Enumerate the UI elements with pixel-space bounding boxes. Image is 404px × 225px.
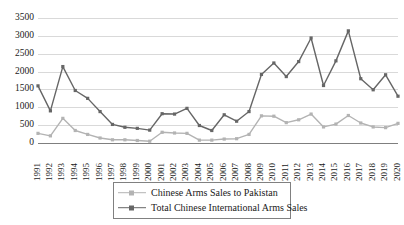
x-tick-label: 1992 <box>45 163 54 181</box>
data-point-marker <box>49 134 52 137</box>
data-point-marker <box>310 36 313 39</box>
data-point-marker <box>111 138 114 141</box>
data-point-marker <box>185 132 188 135</box>
data-point-marker <box>235 137 238 140</box>
x-tick-label: 2013 <box>306 163 315 181</box>
data-point-marker <box>384 73 387 76</box>
x-tick-label: 2000 <box>144 163 153 181</box>
x-tick-label: 2011 <box>281 163 290 181</box>
data-point-marker <box>148 140 151 143</box>
data-point-marker <box>396 122 399 125</box>
x-tick-label: 1994 <box>70 163 79 181</box>
x-tick-label: 2018 <box>368 163 377 181</box>
data-point-marker <box>347 29 350 32</box>
x-tick-label: 2008 <box>244 163 253 181</box>
data-point-marker <box>334 122 337 125</box>
data-point-marker <box>173 112 176 115</box>
legend-item-total[interactable]: Total Chinese International Arms Sales <box>118 200 286 215</box>
data-point-marker <box>61 117 64 120</box>
x-tick-label: 2020 <box>393 163 402 181</box>
x-tick-label: 2004 <box>194 163 203 181</box>
data-point-marker <box>334 59 337 62</box>
data-point-marker <box>86 133 89 136</box>
data-point-marker <box>235 120 238 123</box>
data-point-marker <box>198 124 201 127</box>
x-tick-label: 2009 <box>256 163 265 181</box>
data-point-marker <box>74 129 77 132</box>
data-point-marker <box>359 77 362 80</box>
data-point-marker <box>223 113 226 116</box>
x-tick-label: 1998 <box>119 163 128 181</box>
data-point-marker <box>185 107 188 110</box>
data-point-marker <box>372 125 375 128</box>
series-line <box>38 114 398 141</box>
series-line <box>38 31 398 131</box>
plot-area <box>38 18 398 143</box>
x-tick-label: 2015 <box>330 163 339 181</box>
data-point-marker <box>161 112 164 115</box>
data-point-marker <box>297 60 300 63</box>
x-axis-line <box>38 143 398 144</box>
data-point-marker <box>247 133 250 136</box>
y-tick-label: 2000 <box>0 67 34 77</box>
y-tick-label: 3000 <box>0 31 34 41</box>
x-tick-label: 2001 <box>157 163 166 181</box>
y-tick-label: 1000 <box>0 103 34 113</box>
data-point-marker <box>98 136 101 139</box>
data-point-marker <box>123 126 126 129</box>
data-point-marker <box>36 84 39 87</box>
x-tick-label: 2002 <box>169 163 178 181</box>
data-point-marker <box>384 126 387 129</box>
x-tick-label: 2007 <box>231 163 240 181</box>
x-tick-label: 2014 <box>318 163 327 181</box>
data-point-marker <box>247 110 250 113</box>
data-point-marker <box>148 129 151 132</box>
legend-label-pakistan: Chinese Arms Sales to Pakistan <box>151 188 278 198</box>
x-axis-labels: 1991199219931994199519961997199819992000… <box>38 145 398 181</box>
data-point-marker <box>49 109 52 112</box>
y-axis-labels: 0500100015002000250030003500 <box>0 18 34 143</box>
data-point-marker <box>86 97 89 100</box>
data-point-marker <box>272 61 275 64</box>
data-point-marker <box>359 121 362 124</box>
data-point-marker <box>61 65 64 68</box>
data-point-marker <box>223 137 226 140</box>
x-tick-label: 2006 <box>219 163 228 181</box>
line-chart: 0500100015002000250030003500 19911992199… <box>0 0 404 225</box>
y-tick-label: 2500 <box>0 49 34 59</box>
x-tick-label: 1993 <box>57 163 66 181</box>
x-tick-label: 2016 <box>343 163 352 181</box>
data-point-marker <box>74 89 77 92</box>
legend-swatch-total-icon <box>118 203 146 213</box>
series-pakistan <box>36 112 399 142</box>
data-point-marker <box>396 95 399 98</box>
legend-swatch-pakistan-icon <box>118 188 146 198</box>
x-tick-label: 1991 <box>33 163 42 181</box>
data-point-marker <box>260 114 263 117</box>
data-point-marker <box>198 139 201 142</box>
data-point-marker <box>136 127 139 130</box>
chart-legend: Chinese Arms Sales to Pakistan Total Chi… <box>113 182 291 219</box>
data-point-marker <box>260 73 263 76</box>
x-tick-label: 2010 <box>268 163 277 181</box>
data-point-marker <box>322 84 325 87</box>
x-tick-label: 2012 <box>293 163 302 181</box>
legend-label-total: Total Chinese International Arms Sales <box>151 203 308 213</box>
data-point-marker <box>173 131 176 134</box>
series-layer <box>38 18 398 143</box>
legend-item-pakistan[interactable]: Chinese Arms Sales to Pakistan <box>118 185 286 200</box>
y-tick-label: 3500 <box>0 13 34 23</box>
x-tick-label: 2005 <box>206 163 215 181</box>
data-point-marker <box>297 118 300 121</box>
x-tick-label: 1997 <box>107 163 116 181</box>
y-tick-label: 1500 <box>0 85 34 95</box>
data-point-marker <box>36 132 39 135</box>
x-tick-label: 1995 <box>82 163 91 181</box>
series-total <box>36 29 399 132</box>
data-point-marker <box>285 121 288 124</box>
data-point-marker <box>123 138 126 141</box>
data-point-marker <box>210 129 213 132</box>
x-tick-label: 2017 <box>355 163 364 181</box>
data-point-marker <box>98 110 101 113</box>
data-point-marker <box>111 123 114 126</box>
